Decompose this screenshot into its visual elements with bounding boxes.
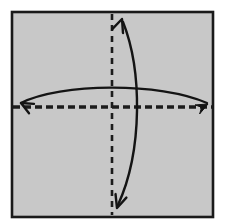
origami-fold-diagram: Square sheet with horizontal and vertica… xyxy=(0,0,225,223)
fold-diagram-canvas xyxy=(0,0,225,223)
